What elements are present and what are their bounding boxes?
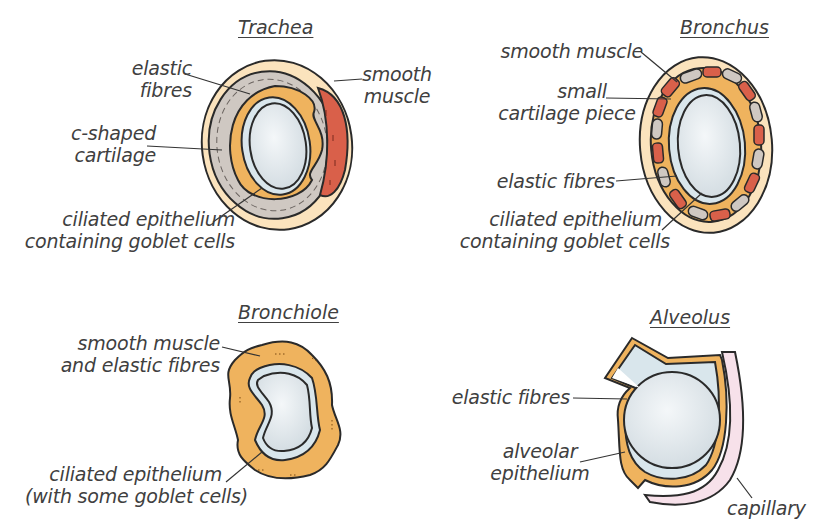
trachea-label-ciliated-epithelium: ciliated epithelium containing goblet ce… bbox=[10, 208, 235, 252]
trachea-label-elastic-fibres: elastic fibres bbox=[100, 57, 192, 101]
label-line: smooth bbox=[362, 63, 432, 85]
label-line: ciliated epithelium bbox=[10, 208, 235, 230]
bronchus-label-ciliated-epithelium: ciliated epithelium containing goblet ce… bbox=[448, 208, 670, 252]
bronchiole-title: Bronchiole bbox=[238, 301, 339, 323]
label-line: c-shaped bbox=[40, 122, 156, 144]
alveolus-label-elastic-fibres: elastic fibres bbox=[435, 386, 570, 408]
bronchus-label-small-cartilage-piece: small cartilage piece bbox=[492, 80, 642, 124]
bronchiole-label-ciliated-epithelium: ciliated epithelium (with some goblet ce… bbox=[8, 463, 248, 507]
label-line: fibres bbox=[100, 79, 192, 101]
trachea-title: Trachea bbox=[238, 16, 313, 38]
label-line: containing goblet cells bbox=[10, 230, 235, 252]
alveolus-cross-section bbox=[605, 338, 743, 505]
alveolus-title: Alveolus bbox=[650, 306, 730, 328]
label-line: and elastic fibres bbox=[40, 354, 220, 376]
bronchus-title: Bronchus bbox=[680, 16, 769, 38]
label-line: containing goblet cells bbox=[448, 230, 670, 252]
trachea-label-smooth-muscle: smooth muscle bbox=[362, 63, 432, 107]
label-line: ciliated epithelium bbox=[448, 208, 670, 230]
trachea-label-c-shaped-cartilage: c-shaped cartilage bbox=[40, 122, 156, 166]
label-line: (with some goblet cells) bbox=[8, 485, 248, 507]
label-line: alveolar bbox=[490, 440, 590, 462]
label-line: cartilage bbox=[40, 144, 156, 166]
bronchiole-cross-section bbox=[228, 342, 340, 479]
label-line: elastic bbox=[100, 57, 192, 79]
bronchus-label-elastic-fibres: elastic fibres bbox=[480, 170, 615, 192]
label-line: epithelium bbox=[490, 462, 590, 484]
label-line: ciliated epithelium bbox=[8, 463, 248, 485]
bronchiole-label-smooth-muscle-elastic: smooth muscle and elastic fibres bbox=[40, 332, 220, 376]
label-line: cartilage piece bbox=[492, 102, 642, 124]
alveolus-label-alveolar-epithelium: alveolar epithelium bbox=[490, 440, 590, 484]
bronchus-label-smooth-muscle: smooth muscle bbox=[490, 40, 643, 62]
alveolus-label-capillary: capillary bbox=[727, 497, 806, 519]
label-line: smooth muscle bbox=[40, 332, 220, 354]
label-line: muscle bbox=[362, 85, 432, 107]
label-line: small bbox=[492, 80, 642, 102]
